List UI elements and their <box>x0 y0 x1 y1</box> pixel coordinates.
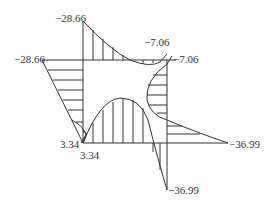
right-column-curve <box>147 56 228 143</box>
label-top-right-column: −7.06 <box>173 54 198 65</box>
label-top-right-beam: −7.06 <box>144 37 169 48</box>
bottom-beam-curve <box>83 98 167 190</box>
moment-diagram <box>0 0 265 210</box>
label-bottom-left-beam: 3.34 <box>80 150 99 161</box>
label-bottom-left-column: 3.34 <box>60 139 79 150</box>
label-top-left-beam: −28.66 <box>14 54 45 65</box>
label-bottom-right-beam: −36.99 <box>229 139 260 150</box>
label-bottom-right-column: −36.99 <box>168 185 199 196</box>
label-top-left-column: −28.66 <box>55 13 86 24</box>
left-column-curve <box>42 60 83 143</box>
